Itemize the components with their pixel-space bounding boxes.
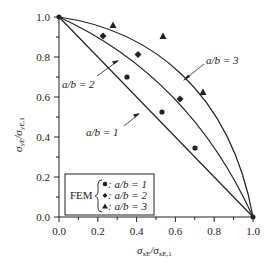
y-ticks [54, 17, 59, 217]
triangle-marker [110, 22, 117, 29]
circle-marker [192, 145, 197, 150]
annotation-ab-1: a/b = 1 [86, 126, 118, 138]
endpoint-marker [57, 15, 62, 20]
arrowheads [112, 60, 190, 118]
annotation-ab-2: a/b = 2 [62, 78, 95, 90]
x-axis-title: σxE/σxE,1 [137, 244, 172, 258]
y-tick-label: 0.4 [36, 131, 50, 143]
y-tick-label: 1.0 [36, 11, 50, 23]
y-tick-label: 0.8 [36, 51, 50, 63]
legend-group-label: FEM [70, 189, 93, 201]
legend-entry-3: : a/b = 3 [108, 200, 147, 212]
endpoint-marker [251, 215, 256, 220]
x-tick-label: 0.8 [207, 225, 221, 237]
circle-marker [159, 109, 164, 114]
annotation-arrows [97, 61, 204, 126]
x-tick-label: 0.2 [91, 225, 105, 237]
legend: FEM : a/b = 1 : a/b = 2 : a/b = 3 [65, 174, 154, 215]
triangle-marker [160, 33, 167, 40]
y-tick-label: 0.0 [36, 211, 50, 223]
diamond-marker [135, 51, 142, 58]
y-tick-label: 0.2 [36, 171, 50, 183]
y-tick-label: 0.6 [36, 91, 50, 103]
x-tick-label: 0.0 [52, 225, 66, 237]
y-axis-title: σyE/σyE,1 [12, 117, 26, 152]
annotation-ab-3: a/b = 3 [206, 54, 239, 66]
triangle-marker [200, 89, 207, 96]
legend-circle-icon [103, 182, 108, 187]
x-tick-label: 0.6 [169, 225, 183, 237]
y-tick-labels: 0.0 0.2 0.4 0.6 0.8 1.0 [36, 11, 50, 223]
x-tick-labels: 0.0 0.2 0.4 0.6 0.8 1.0 [52, 225, 260, 237]
x-tick-label: 0.4 [130, 225, 144, 237]
chart: 0.0 0.2 0.4 0.6 0.8 1.0 0.0 0.2 0.4 0.6 … [0, 0, 273, 273]
x-tick-label: 1.0 [246, 225, 260, 237]
circle-marker [124, 74, 129, 79]
x-ticks [59, 217, 253, 222]
